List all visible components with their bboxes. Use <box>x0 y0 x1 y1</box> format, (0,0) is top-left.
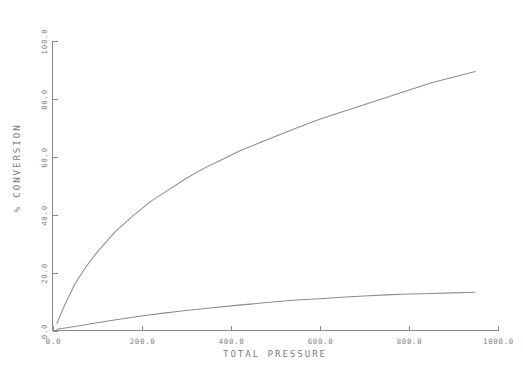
y-tick-label: 20.0 <box>40 263 49 284</box>
chart-page: 0.0200.0400.0600.0800.01000.0 0.020.040.… <box>0 0 523 373</box>
axes-group <box>53 41 498 331</box>
y-tick-label: 40.0 <box>40 205 49 226</box>
y-tick-labels: 0.020.040.060.080.0100.0 <box>40 29 49 340</box>
series-upper-curve <box>57 71 475 323</box>
y-axis-title: % CONVERSION <box>11 123 22 212</box>
y-tick-marks <box>53 42 58 332</box>
x-tick-labels: 0.0200.0400.0600.0800.01000.0 <box>46 337 514 346</box>
y-tick-label: 80.0 <box>40 89 49 110</box>
line-chart: 0.0200.0400.0600.0800.01000.0 0.020.040.… <box>0 0 523 373</box>
x-axis-title: TOTAL PRESSURE <box>223 348 327 359</box>
x-tick-label: 600.0 <box>308 337 334 346</box>
series-lower-curve <box>57 292 475 329</box>
x-tick-label: 800.0 <box>397 337 423 346</box>
x-tick-label: 1000.0 <box>483 337 514 346</box>
x-tick-marks <box>54 326 499 331</box>
y-tick-label: 0.0 <box>40 324 49 339</box>
x-tick-label: 400.0 <box>219 337 245 346</box>
y-tick-label: 100.0 <box>40 29 49 55</box>
x-tick-label: 200.0 <box>130 337 156 346</box>
data-series-group <box>57 71 475 329</box>
y-tick-label: 60.0 <box>40 147 49 168</box>
